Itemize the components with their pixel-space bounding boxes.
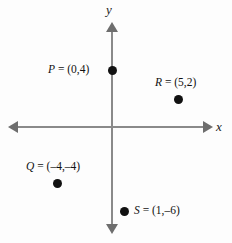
point-name: P [48,63,55,75]
point-name: R [155,76,162,88]
point-r-dot [174,95,183,104]
point-p-dot [108,66,117,75]
point-q-label: Q = (–4,–4) [26,160,80,172]
x-axis-arrow-right-icon [203,121,213,133]
point-coordinates: = (1,–6) [140,204,180,216]
point-p-label: P = (0,4) [48,63,89,75]
coordinate-plane-figure: x y P = (0,4) R = (5,2) Q = (–4,–4) S = … [0,0,232,243]
y-axis-label: y [106,2,112,18]
point-coordinates: = (5,2) [162,76,196,88]
point-coordinates: = (0,4) [55,63,89,75]
y-axis-line [111,28,113,230]
point-r-label: R = (5,2) [155,76,196,88]
point-s-label: S = (1,–6) [134,204,180,216]
y-axis-arrow-up-icon [106,22,118,32]
point-coordinates: = (–4,–4) [34,160,80,172]
point-q-dot [53,179,62,188]
x-axis-arrow-left-icon [8,121,18,133]
point-s-dot [120,207,129,216]
x-axis-label: x [216,119,222,135]
y-axis-arrow-down-icon [106,224,118,234]
